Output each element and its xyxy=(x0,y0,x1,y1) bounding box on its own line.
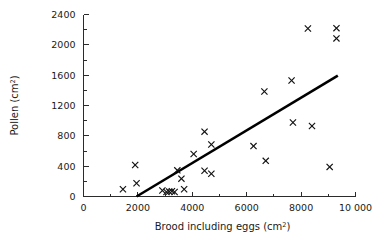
y-axis-tick-label: 800 xyxy=(57,130,75,141)
x-axis-tick-label: 10 000 xyxy=(339,202,372,213)
data-point-marker xyxy=(263,158,269,164)
data-point-marker xyxy=(290,119,296,125)
y-axis-tick-label: 400 xyxy=(57,161,75,172)
y-axis-tick-label: 2000 xyxy=(51,39,75,50)
y-axis-tick-label: 0 xyxy=(69,191,75,202)
regression-line-segment xyxy=(137,76,338,197)
x-axis-tick-label: 0 xyxy=(80,202,86,213)
x-axis-tick-label: 6000 xyxy=(235,202,259,213)
data-point-marker xyxy=(333,35,339,41)
data-point-marker xyxy=(327,164,333,170)
chart-canvas: 0400800120016002000240002000400060008000… xyxy=(0,0,390,239)
data-point-marker xyxy=(178,176,184,182)
data-point-marker xyxy=(208,141,214,147)
data-point-marker xyxy=(250,143,256,149)
data-point-marker xyxy=(120,186,126,192)
x-axis-title: Brood including eggs (cm2) xyxy=(155,221,291,233)
data-point-marker xyxy=(201,129,207,135)
scatter-chart-figure: 0400800120016002000240002000400060008000… xyxy=(0,0,390,239)
data-point-marker xyxy=(201,168,207,174)
x-axis-tick-label: 2000 xyxy=(126,202,150,213)
ticks-group xyxy=(84,15,356,197)
data-point-marker xyxy=(133,180,139,186)
y-axis-tick-label: 2400 xyxy=(51,9,75,20)
data-point-marker xyxy=(333,25,339,31)
x-axis-tick-label: 4000 xyxy=(180,202,204,213)
x-axis-tick-label: 8000 xyxy=(289,202,313,213)
data-point-marker xyxy=(208,171,214,177)
data-point-marker xyxy=(181,186,187,192)
y-axis-title: Pollen (cm2) xyxy=(9,75,21,135)
data-point-marker xyxy=(132,162,138,168)
y-axis-tick-label: 1200 xyxy=(51,100,75,111)
axes-group xyxy=(84,15,356,197)
data-point-marker xyxy=(305,25,311,31)
y-axis-tick-label: 1600 xyxy=(51,70,75,81)
regression-line xyxy=(137,76,338,197)
data-points-group xyxy=(120,25,340,195)
data-point-marker xyxy=(191,151,197,157)
data-point-marker xyxy=(309,123,315,129)
tick-labels-group: 0400800120016002000240002000400060008000… xyxy=(51,9,372,213)
data-point-marker xyxy=(261,88,267,94)
data-point-marker xyxy=(288,77,294,83)
